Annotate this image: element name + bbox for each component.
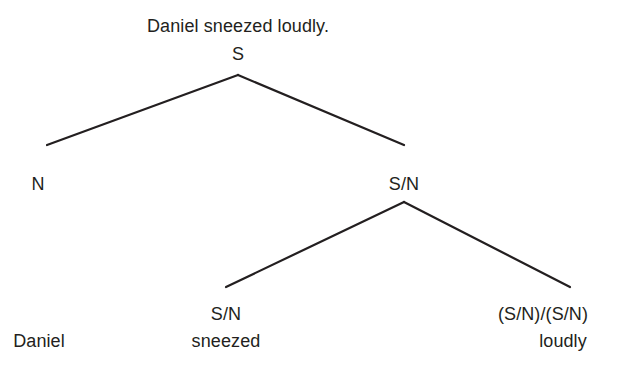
word-sneezed: sneezed: [192, 331, 261, 351]
edge-s-to-n: [47, 75, 238, 145]
edge-sn-to-sn-verb: [226, 202, 404, 287]
edge-sn-to-adverb: [404, 202, 570, 287]
node-root-s: S: [232, 44, 244, 64]
node-adverb-category: (S/N)/(S/N): [498, 304, 588, 324]
node-sn: S/N: [389, 174, 419, 194]
node-n: N: [31, 174, 44, 194]
node-sn-verb: S/N: [211, 304, 241, 324]
sentence-title: Daniel sneezed loudly.: [147, 16, 329, 36]
edge-s-to-sn: [238, 75, 404, 145]
word-daniel: Daniel: [13, 331, 65, 351]
word-loudly: loudly: [539, 331, 587, 351]
